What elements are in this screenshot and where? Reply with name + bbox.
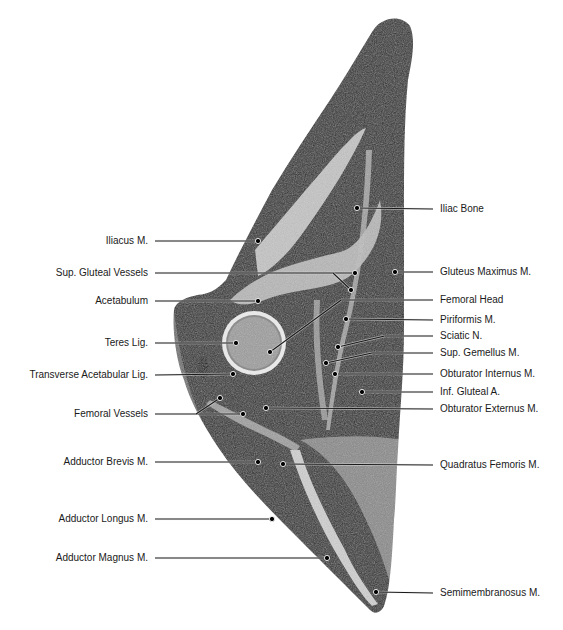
label-iliac-bone: Iliac Bone	[440, 203, 484, 215]
label-inf-gluteal-a: Inf. Gluteal A.	[440, 386, 500, 398]
label-iliacus-m: Iliacus M.	[106, 235, 148, 247]
label-quadratus-femoris-m: Quadratus Femoris M.	[440, 459, 539, 471]
label-sup-gluteal-vessels: Sup. Gluteal Vessels	[56, 267, 148, 279]
label-obturator-externus-m: Obturator Externus M.	[440, 403, 538, 415]
label-adductor-brevis-m: Adductor Brevis M.	[64, 456, 148, 468]
label-piriformis-m: Piriformis M.	[440, 314, 496, 326]
label-transverse-acetabular-lig: Transverse Acetabular Lig.	[29, 369, 148, 381]
label-femoral-vessels: Femoral Vessels	[74, 408, 148, 420]
label-semimembranosus-m: Semimembranosus M.	[440, 587, 540, 599]
label-sup-gemellus-m: Sup. Gemellus M.	[440, 347, 519, 359]
label-obturator-internus-m: Obturator Internus M.	[440, 368, 535, 380]
label-gluteus-maximus-m: Gluteus Maximus M.	[440, 266, 531, 278]
label-teres-lig: Teres Lig.	[105, 337, 148, 349]
label-femoral-head: Femoral Head	[440, 294, 503, 306]
label-adductor-magnus-m: Adductor Magnus M.	[56, 552, 148, 564]
anatomy-figure: Iliacus M.Sup. Gluteal VesselsAcetabulum…	[0, 0, 563, 630]
label-adductor-longus-m: Adductor Longus M.	[59, 513, 149, 525]
label-acetabulum: Acetabulum	[95, 295, 148, 307]
label-sciatic-n: Sciatic N.	[440, 330, 482, 342]
